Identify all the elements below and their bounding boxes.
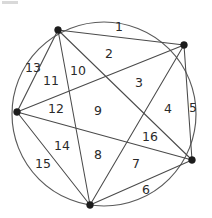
region-label-11: 11 — [43, 73, 59, 88]
region-label-13: 13 — [25, 60, 41, 75]
circle-chord-diagram: 12345678910111213141516 — [0, 0, 212, 218]
region-label-10: 10 — [70, 63, 86, 78]
region-label-3: 3 — [135, 75, 143, 90]
region-label-1: 1 — [115, 19, 123, 34]
region-label-9: 9 — [94, 103, 102, 118]
bottom-vertex-dot — [87, 202, 94, 209]
region-label-5: 5 — [189, 100, 197, 115]
region-label-2: 2 — [105, 46, 113, 61]
region-label-8: 8 — [94, 147, 102, 162]
region-label-7: 7 — [132, 156, 140, 171]
diagram-canvas: 12345678910111213141516 — [0, 0, 212, 218]
top-left-vertex-dot — [55, 27, 62, 34]
region-label-16: 16 — [142, 129, 158, 144]
region-label-14: 14 — [54, 138, 70, 153]
scan-artifact-top-left — [2, 1, 18, 4]
top-right-vertex-dot — [181, 42, 188, 49]
right-lower-vertex-dot — [189, 157, 196, 164]
region-label-4: 4 — [164, 101, 172, 116]
region-label-12: 12 — [48, 101, 64, 116]
left-vertex-dot — [14, 109, 21, 116]
region-label-6: 6 — [142, 182, 150, 197]
region-label-15: 15 — [35, 156, 51, 171]
